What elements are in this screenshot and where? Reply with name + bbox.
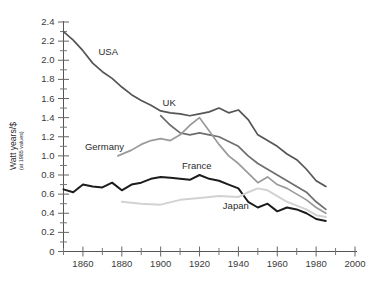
y-tick-label: 2.4: [41, 16, 54, 27]
x-tick-label: 1860: [72, 258, 93, 269]
y-tick-label: 1.0: [41, 150, 54, 161]
series-label-france: France: [182, 160, 212, 171]
series-label-uk: UK: [163, 97, 177, 108]
x-tick-label: 2000: [344, 258, 365, 269]
chart-container: Watt years/$ (at 1985 values) 00.20.40.6…: [0, 0, 381, 292]
series-lines: [64, 32, 326, 221]
y-axis-title-main: Watt years/$: [8, 122, 18, 170]
y-axis-title: Watt years/$ (at 1985 values): [8, 122, 24, 170]
x-tick-label: 1880: [111, 258, 132, 269]
y-axis-title-units: (at 1985 values): [18, 131, 24, 170]
line-chart: Watt years/$ (at 1985 values) 00.20.40.6…: [0, 0, 381, 292]
x-tick-label: 1900: [150, 258, 171, 269]
y-tick-label: 1.8: [41, 73, 54, 84]
x-tick-label: 1920: [189, 258, 210, 269]
y-tick-label: 1.4: [41, 112, 54, 123]
x-tick-label: 1940: [228, 258, 249, 269]
y-axis: 00.20.40.60.81.01.21.41.61.82.02.22.4: [41, 16, 69, 257]
series-line-germany: [118, 118, 326, 214]
y-tick-label: 2.2: [41, 35, 54, 46]
y-tick-label: 0.2: [41, 226, 54, 237]
y-tick-label: 1.2: [41, 131, 54, 142]
series-label-japan: Japan: [223, 200, 249, 211]
series-label-germany: Germany: [85, 141, 124, 152]
x-axis: 18601880190019201940196019802000: [64, 247, 366, 269]
series-label-usa: USA: [98, 46, 118, 57]
y-tick-label: 1.6: [41, 93, 54, 104]
y-tick-label: 2.0: [41, 54, 54, 65]
y-tick-label: 0.4: [41, 207, 54, 218]
y-tick-label: 0.8: [41, 169, 54, 180]
series-labels: USAUKGermanyFranceJapan: [85, 46, 249, 212]
y-tick-label: 0: [49, 246, 54, 257]
x-tick-label: 1960: [267, 258, 288, 269]
x-tick-label: 1980: [306, 258, 327, 269]
y-tick-label: 0.6: [41, 188, 54, 199]
